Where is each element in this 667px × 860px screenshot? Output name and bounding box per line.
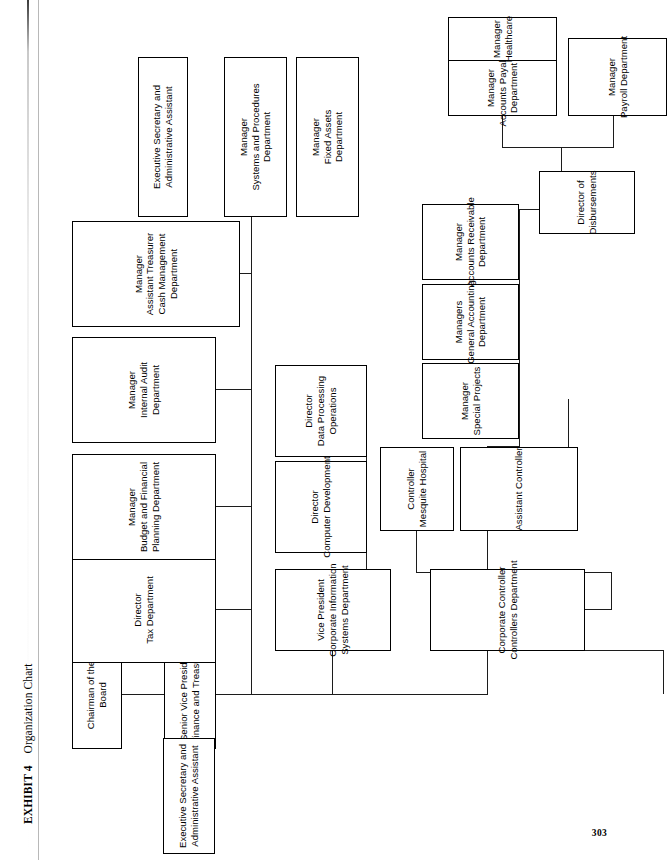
connector-asstctrl-bus (519, 209, 520, 447)
node-mgr-genacct[interactable]: ManagersGeneral AccountingDepartment (422, 284, 519, 360)
node-dir-dataproc[interactable]: DirectorData ProcessingOperations (275, 365, 367, 457)
node-ctrl-mesquite-text: ControllerMesquite Hospital (405, 451, 428, 527)
connector-controller-execsec-h (663, 650, 664, 694)
organization-chart: Chairman of theBoard Senior Vice Preside… (50, 18, 616, 834)
node-mgr-treasurer-text: ManagerAssistant TreasurerCash Managemen… (133, 233, 180, 316)
connector-bus-dirtax (216, 609, 252, 610)
node-corp-controller-text: Corporate ControllerControllers Departme… (496, 560, 519, 659)
connector-svp-vpcis (332, 651, 333, 695)
node-mgr-audit-text: ManagerInternal AuditDepartment (126, 362, 161, 418)
node-dir-tax-text: DirectorTax Department (132, 576, 155, 644)
node-mgr-budget-text: ManagerBudget and FinancialPlanning Depa… (126, 462, 161, 552)
connector-svp-controller (487, 651, 488, 695)
node-mgr-fixedassets-text: ManagerFixed AssetsDepartment (310, 110, 345, 164)
node-mgr-fixedassets[interactable]: ManagerFixed AssetsDepartment (296, 57, 359, 217)
exhibit-caption: EXHIBIT 4 Organization Chart (22, 663, 34, 824)
node-dir-dataproc-text: DirectorData ProcessingOperations (303, 376, 338, 446)
node-chairman-text: Chairman of theBoard (85, 661, 108, 729)
connector-controller-asstctrl (487, 531, 488, 573)
node-mgr-specproj-text: ManagerSpecial Projects (459, 367, 482, 436)
node-mgr-budget[interactable]: ManagerBudget and FinancialPlanning Depa… (72, 454, 216, 560)
node-exec-sec-bottom[interactable]: Executive Secretary andAdministrative As… (138, 57, 188, 217)
node-corp-controller[interactable]: Corporate ControllerControllers Departme… (430, 569, 585, 651)
node-mgr-audit[interactable]: ManagerInternal AuditDepartment (72, 337, 216, 443)
node-mgr-ar[interactable]: ManagerAccounts ReceivableDepartment (422, 204, 519, 280)
node-mgr-specproj[interactable]: ManagerSpecial Projects (422, 363, 519, 439)
connector-disburse-bus-h1 (561, 147, 562, 171)
node-dir-disburse-text: Director ofDisbursements (575, 171, 598, 235)
node-dir-compdev-text: DirectorComputer Development (309, 456, 332, 557)
node-asst-controller-text: Assistant Controller (513, 447, 525, 530)
node-dir-tax[interactable]: DirectorTax Department (72, 557, 216, 663)
connector-controller-mesquite (416, 531, 417, 573)
node-dir-disburse[interactable]: Director ofDisbursements (539, 171, 635, 234)
node-mgr-treasurer[interactable]: ManagerAssistant TreasurerCash Managemen… (72, 221, 240, 327)
exhibit-label: EXHIBIT 4 (22, 765, 34, 824)
node-mgr-systems[interactable]: ManagerSystems and ProceduresDepartment (224, 57, 287, 217)
connector-disburse-bus (502, 147, 614, 148)
node-asst-controller[interactable]: Assistant Controller (460, 447, 578, 531)
node-mgr-ar-text: ManagerAccounts ReceivableDepartment (453, 197, 488, 287)
node-mgr-payroll-text: ManagerPayroll Department (606, 36, 629, 118)
connector-svp-vpcis-vert (251, 694, 333, 695)
connector-svp-controller-vert (332, 694, 488, 695)
node-ctrl-mesquite[interactable]: ControllerMesquite Hospital (380, 447, 454, 531)
node-mgr-payroll[interactable]: ManagerPayroll Department (568, 38, 667, 116)
node-mgr-ap[interactable]: ManagerAccounts PayableDepartment (448, 60, 557, 116)
exhibit-title: Organization Chart (22, 663, 34, 753)
connector-bus-audit (216, 389, 252, 390)
connector-disburse-payroll (613, 116, 614, 148)
node-mgr-genacct-text: ManagersGeneral AccountingDepartment (453, 280, 488, 364)
node-mgr-healthcare[interactable]: ManagerHealthcare (448, 17, 557, 61)
node-exec-sec-top[interactable]: Executive Secretary andAdministrative As… (163, 738, 215, 854)
node-exec-sec-top-text: Executive Secretary andAdministrative As… (177, 744, 200, 848)
node-mgr-healthcare-text: ManagerHealthcare (491, 16, 514, 62)
scan-edge-line (38, 0, 39, 860)
node-mgr-systems-text: ManagerSystems and ProceduresDepartment (238, 83, 273, 190)
connector-chairman-svp (122, 694, 164, 695)
connector-svp-bus (251, 193, 252, 695)
connector-controller-systems (611, 572, 612, 610)
node-vp-cis-text: Vice PresidentCorporate InformationSyste… (315, 563, 350, 656)
node-dir-compdev[interactable]: DirectorComputer Development (275, 461, 367, 553)
node-exec-sec-bottom-text: Executive Secretary andAdministrative As… (151, 85, 174, 189)
connector-svp-spine (216, 694, 252, 695)
connector-bus-budget (216, 506, 252, 507)
node-vp-cis[interactable]: Vice PresidentCorporate InformationSyste… (275, 569, 391, 651)
